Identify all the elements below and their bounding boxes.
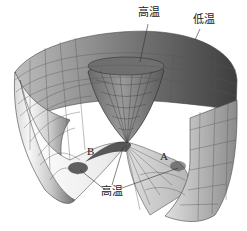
trough-shadow-b <box>68 162 88 174</box>
label-low-temperature: 低温 <box>193 14 215 25</box>
label-point-a: A <box>160 151 168 162</box>
leader-top-low <box>195 29 200 40</box>
mexican-hat-diagram: 高温 低温 高温 B A <box>0 0 247 231</box>
label-bottom-high-temperature: 高温 <box>101 186 123 197</box>
trough-shadow-a <box>170 161 186 171</box>
label-top-high-temperature: 高温 <box>138 7 160 18</box>
label-point-b: B <box>87 146 94 157</box>
surface-illustration <box>0 0 247 231</box>
